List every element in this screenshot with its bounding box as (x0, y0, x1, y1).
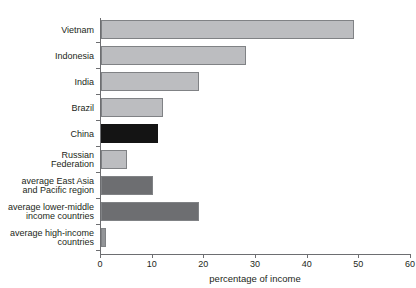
y-axis-tick (96, 94, 100, 95)
x-axis-tick-label: 50 (353, 259, 363, 269)
category-label: India (0, 78, 94, 88)
x-axis-tick (100, 254, 101, 258)
y-axis-tick (96, 42, 100, 43)
y-axis-tick (96, 250, 100, 251)
x-axis-tick-label: 30 (250, 259, 260, 269)
bar-chart-plot-area: 0102030405060 VietnamIndonesiaIndiaBrazi… (0, 0, 416, 288)
bar (101, 228, 106, 247)
x-axis-tick (307, 254, 308, 258)
x-axis-tick (255, 254, 256, 258)
y-axis-tick (96, 198, 100, 199)
bar (101, 46, 246, 65)
bar-row: average East Asia and Pacific region (0, 176, 416, 202)
bar-row: average lower-middle income countries (0, 202, 416, 228)
category-label: Brazil (0, 104, 94, 114)
category-label: average lower-middle income countries (0, 203, 94, 222)
bar-row: Vietnam (0, 20, 416, 46)
y-axis-tick (96, 68, 100, 69)
category-label: Russian Federation (0, 151, 94, 170)
x-axis-tick (203, 254, 204, 258)
bar (101, 20, 354, 39)
x-axis-tick-label: 0 (97, 259, 102, 269)
bar-row: average high-income countries (0, 228, 416, 254)
bar-row: Russian Federation (0, 150, 416, 176)
bar (101, 202, 199, 221)
x-axis-tick (152, 254, 153, 258)
x-axis-tick (358, 254, 359, 258)
x-axis-tick-label: 40 (302, 259, 312, 269)
category-label: Vietnam (0, 26, 94, 36)
bar-row: Brazil (0, 98, 416, 124)
y-axis-tick (96, 172, 100, 173)
bar (101, 150, 127, 169)
bar (101, 176, 153, 195)
x-axis-tick-label: 60 (405, 259, 415, 269)
bar-row: India (0, 72, 416, 98)
bar (101, 124, 158, 143)
y-axis-tick (96, 120, 100, 121)
x-axis-tick (410, 254, 411, 258)
x-axis-label: percentage of income (209, 273, 300, 284)
bar (101, 72, 199, 91)
bar-row: China (0, 124, 416, 150)
bar-row: Indonesia (0, 46, 416, 72)
x-axis-tick-label: 10 (147, 259, 157, 269)
y-axis-tick (96, 146, 100, 147)
category-label: average East Asia and Pacific region (0, 177, 94, 196)
x-axis-tick-label: 20 (198, 259, 208, 269)
category-label: Indonesia (0, 52, 94, 62)
category-label: China (0, 130, 94, 140)
bar (101, 98, 163, 117)
category-label: average high-income countries (0, 229, 94, 248)
y-axis-tick (96, 224, 100, 225)
